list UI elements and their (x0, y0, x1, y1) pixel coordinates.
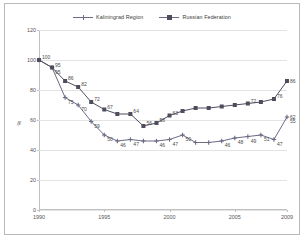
data-point-label: 100 (42, 54, 50, 60)
data-point-marker (272, 97, 276, 101)
y-axis-tick-label: 20 (30, 177, 36, 183)
data-point-marker (141, 124, 145, 128)
y-axis-tick-label: 0 (33, 207, 36, 213)
legend-item-russian-federation: Russian Federation (159, 14, 231, 20)
data-point-marker (128, 137, 132, 141)
data-point-label: 47 (277, 141, 283, 147)
data-point-label: 59 (94, 123, 100, 129)
data-point-marker (154, 139, 158, 143)
data-point-marker (272, 137, 276, 141)
data-point-label: 46 (225, 142, 231, 148)
data-point-label: 72 (251, 98, 257, 104)
data-point-marker (141, 139, 145, 143)
data-point-marker (63, 95, 67, 99)
data-point-label: 63 (173, 110, 179, 116)
y-axis-tick-label: 120 (27, 27, 36, 33)
data-point-marker (207, 106, 211, 110)
x-axis-tick-label: 1990 (33, 214, 45, 220)
data-point-marker (220, 139, 224, 143)
data-point-label: 47 (173, 141, 179, 147)
data-point-marker (37, 58, 41, 62)
data-point-marker (285, 79, 289, 83)
data-point-marker (102, 108, 106, 112)
data-point-label: 76 (277, 93, 283, 99)
data-point-label: 48 (238, 139, 244, 145)
data-point-marker (285, 115, 289, 119)
gridline (39, 210, 287, 211)
data-point-marker (220, 105, 224, 109)
data-point-marker (76, 85, 80, 89)
data-point-label: 46 (159, 142, 165, 148)
data-point-marker (194, 106, 198, 110)
x-axis-tick-mark (104, 210, 105, 212)
chart-frame: Kaliningrad Region Russian Federation % … (4, 3, 300, 235)
data-point-marker (259, 133, 263, 137)
y-axis-tick-label: 100 (27, 57, 36, 63)
y-axis-tick-label: 80 (30, 87, 36, 93)
data-point-marker (115, 139, 119, 143)
data-point-label: 50 (107, 136, 113, 142)
data-point-label: 95 (55, 62, 61, 68)
data-point-marker (63, 79, 67, 83)
data-point-marker (89, 100, 93, 104)
y-axis-title: % (16, 121, 22, 126)
y-axis-tick-label: 60 (30, 117, 36, 123)
x-axis-tick-mark (39, 210, 40, 212)
data-point-marker (246, 102, 250, 106)
x-axis-tick-mark (170, 210, 171, 212)
data-point-marker (50, 66, 54, 70)
data-point-marker (259, 100, 263, 104)
legend-marker-cross-icon (73, 14, 93, 20)
x-axis-tick-mark (235, 210, 236, 212)
x-axis-tick-label: 2000 (164, 214, 176, 220)
data-point-label: 95 (55, 69, 61, 75)
data-point-label: 47 (133, 141, 139, 147)
data-point-marker (115, 112, 119, 116)
chart-legend: Kaliningrad Region Russian Federation (5, 10, 299, 24)
data-point-marker (193, 140, 197, 144)
data-point-label: 51 (264, 136, 270, 142)
data-point-label: 56 (146, 120, 152, 126)
y-axis-tick-label: 40 (30, 147, 36, 153)
data-point-label: 82 (81, 81, 87, 87)
data-point-label: 49 (251, 138, 257, 144)
data-point-label: 75 (68, 99, 74, 105)
data-point-marker (168, 114, 172, 118)
series-line (39, 60, 287, 143)
legend-label-kaliningrad: Kaliningrad Region (96, 14, 143, 20)
data-point-label: 50 (186, 136, 192, 142)
data-point-marker (233, 103, 237, 107)
data-point-marker (181, 109, 185, 113)
plot-area: 020406080100120 19901995200020052009 957… (39, 30, 287, 210)
data-point-label: 67 (107, 104, 113, 110)
data-point-label: 70 (81, 106, 87, 112)
data-point-label: 46 (120, 142, 126, 148)
series-endpoint-label: 86 (290, 78, 296, 84)
data-point-marker (206, 140, 210, 144)
legend-marker-square-icon (159, 14, 179, 20)
data-point-marker (128, 112, 132, 116)
data-point-marker (246, 134, 250, 138)
series-endpoint-label: 62 (290, 114, 296, 120)
x-axis-tick-mark (287, 210, 288, 212)
data-point-marker (154, 121, 158, 125)
legend-label-russian-federation: Russian Federation (182, 14, 231, 20)
x-axis-tick-label: 2009 (281, 214, 293, 220)
data-point-marker (180, 133, 184, 137)
legend-item-kaliningrad: Kaliningrad Region (73, 14, 143, 20)
data-point-marker (167, 137, 171, 141)
x-axis-tick-label: 2005 (229, 214, 241, 220)
data-point-marker (233, 136, 237, 140)
data-point-label: 72 (94, 96, 100, 102)
x-axis-tick-label: 1995 (98, 214, 110, 220)
data-point-label: 64 (133, 108, 139, 114)
data-point-label: 86 (68, 75, 74, 81)
data-point-label: 58 (159, 117, 165, 123)
